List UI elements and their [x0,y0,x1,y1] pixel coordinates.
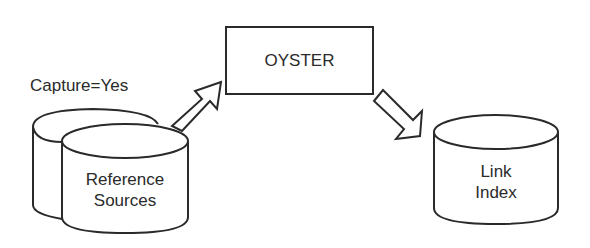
link-index-line2: Index [456,182,536,203]
link-index-label: Link Index [456,161,536,203]
reference-sources-line2: Sources [78,190,172,211]
link-index-line1: Link [456,161,536,182]
capture-label: Capture=Yes [30,75,128,96]
arrow-down-right-icon [374,90,422,139]
reference-sources-line1: Reference [78,169,172,190]
arrow-up-right-icon [172,82,221,131]
oyster-label: OYSTER [226,50,373,71]
reference-sources-label: Reference Sources [78,169,172,211]
